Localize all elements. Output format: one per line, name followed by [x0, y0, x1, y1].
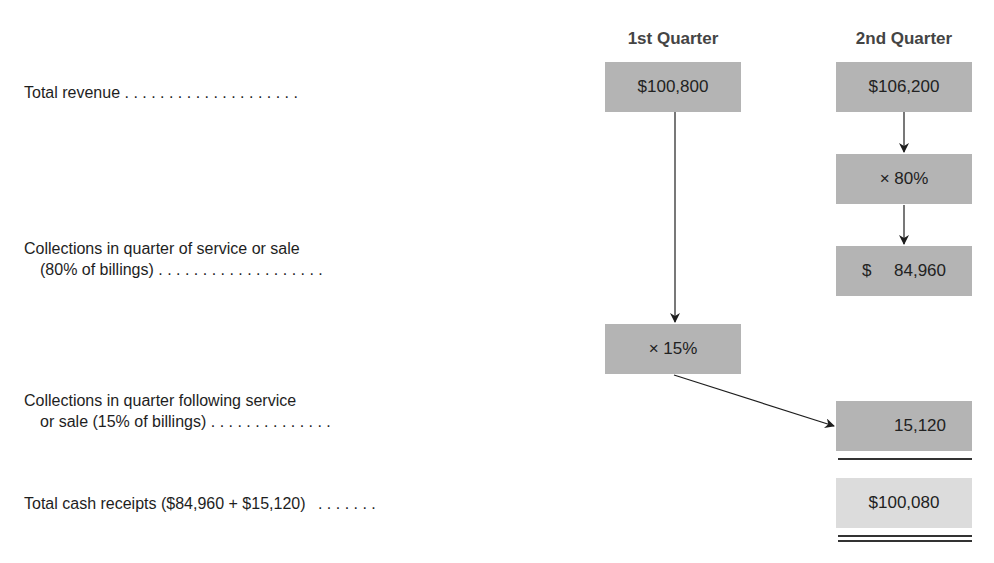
header-2nd-quarter: 2nd Quarter: [836, 29, 972, 49]
row-label-text: Total cash receipts ($84,960 + $15,120): [24, 495, 306, 512]
row-label-text: Total revenue: [24, 84, 120, 101]
box-q1-revenue: $100,800: [605, 62, 741, 112]
double-underline-top: [838, 535, 972, 537]
box-q1-multiplier-15: × 15%: [605, 324, 741, 374]
double-underline-bottom: [838, 540, 972, 542]
box-q2-following-collections: 15,120: [836, 401, 972, 451]
row-label-collections-same-quarter: Collections in quarter of service or sal…: [24, 238, 323, 280]
leader-dots: . . . . . . . . . . . . . .: [211, 413, 331, 430]
arrow-15-to-following-icon: [674, 375, 834, 426]
box-q2-collections: $ 84,960: [836, 246, 972, 296]
single-underline: [838, 458, 972, 460]
row-label-total-revenue: Total revenue . . . . . . . . . . . . . …: [24, 82, 298, 103]
row-label-text-line2: (80% of billings): [40, 261, 154, 278]
collections-value: 84,960: [894, 261, 946, 281]
box-q2-total-cash-receipts: $100,080: [836, 478, 972, 528]
leader-dots: . . . . . . . . . . . . . . . . . . . .: [125, 84, 298, 101]
leader-dots: . . . . . . .: [310, 495, 376, 512]
box-q2-multiplier-80: × 80%: [836, 154, 972, 204]
dollar-sign: $: [862, 261, 871, 281]
row-label-text-line1: Collections in quarter following service: [24, 390, 331, 411]
row-label-total-cash-receipts: Total cash receipts ($84,960 + $15,120) …: [24, 493, 376, 514]
row-label-text-line1: Collections in quarter of service or sal…: [24, 238, 323, 259]
leader-dots: . . . . . . . . . . . . . . . . . . .: [158, 261, 322, 278]
box-q2-revenue: $106,200: [836, 62, 972, 112]
header-1st-quarter: 1st Quarter: [605, 29, 741, 49]
row-label-text-line2: or sale (15% of billings): [40, 413, 206, 430]
row-label-collections-following-quarter: Collections in quarter following service…: [24, 390, 331, 432]
